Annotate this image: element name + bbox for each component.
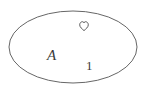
set-boundary-ellipse <box>9 11 137 83</box>
set-diagram-svg <box>0 0 149 96</box>
element-one: 1 <box>86 59 93 72</box>
heart-icon <box>80 22 89 31</box>
set-label-A: A <box>47 48 56 63</box>
diagram-canvas: A 1 <box>0 0 149 96</box>
